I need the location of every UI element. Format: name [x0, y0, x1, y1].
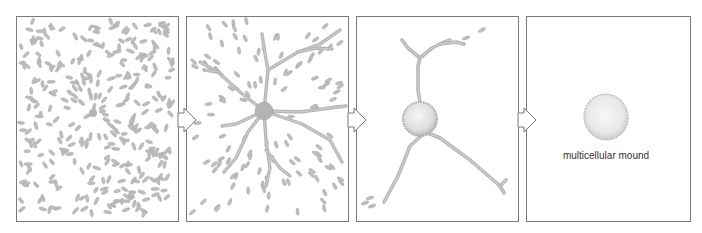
cell	[121, 59, 128, 62]
mound-label: multicellular mound	[563, 150, 649, 161]
cell	[24, 162, 33, 165]
cell	[246, 187, 250, 195]
cell	[207, 113, 215, 117]
diagram: multicellular mound	[0, 0, 702, 233]
aggregation-center	[255, 102, 273, 120]
diagram-canvas	[0, 0, 702, 233]
cell	[41, 80, 45, 87]
cell	[39, 111, 42, 118]
cell	[47, 80, 56, 84]
cell	[19, 129, 27, 132]
cell	[87, 181, 95, 185]
cell	[276, 33, 279, 41]
cell	[144, 85, 152, 88]
cell	[165, 76, 172, 79]
cell	[24, 149, 31, 153]
cell	[83, 67, 86, 74]
cell	[153, 44, 156, 53]
cell	[167, 47, 171, 55]
cell	[73, 158, 76, 165]
cell	[145, 149, 152, 153]
aggregation-center	[89, 109, 97, 117]
cell	[133, 73, 140, 76]
cell-aggregate	[403, 102, 437, 136]
cell	[151, 187, 160, 190]
